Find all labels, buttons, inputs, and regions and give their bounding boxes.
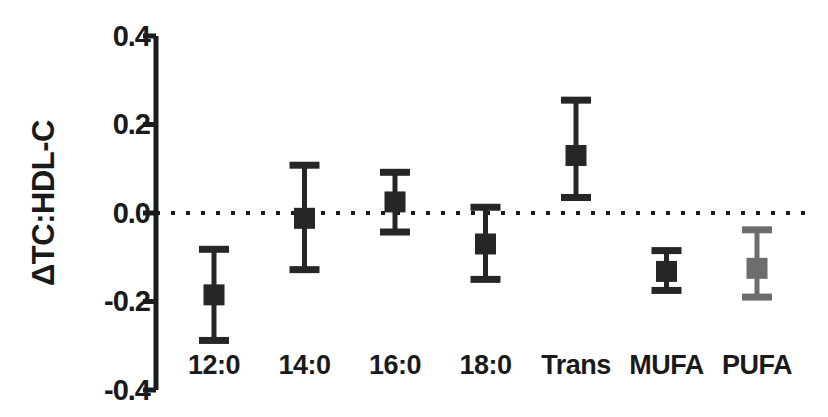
x-tick-label: 14:0 [278,350,330,381]
data-point-MUFA [652,251,682,291]
data-marker [566,145,587,166]
data-marker [747,258,768,279]
data-marker [385,191,406,212]
x-tick-label: 18:0 [459,350,511,381]
chart-figure: ΔTC:HDL-C 0.4 0.2 0.0 -0.2 -0.4 12:014:0… [0,0,828,417]
y-axis-line [143,36,156,390]
data-marker [475,233,496,254]
x-tick-label: 16:0 [369,350,421,381]
x-tick-label: MUFA [629,350,704,381]
data-point-14-0 [290,165,320,269]
data-point-16-0 [380,172,410,232]
data-marker [204,284,225,305]
data-point-12-0 [199,249,229,340]
data-points-group [199,100,772,340]
x-tick-label: PUFA [722,350,792,381]
data-marker [656,261,677,282]
x-tick-label: 12:0 [188,350,240,381]
data-point-18-0 [471,207,501,279]
data-point-Trans [561,100,591,197]
data-point-PUFA [742,230,772,297]
x-tick-label: Trans [541,350,611,381]
data-marker [294,208,315,229]
